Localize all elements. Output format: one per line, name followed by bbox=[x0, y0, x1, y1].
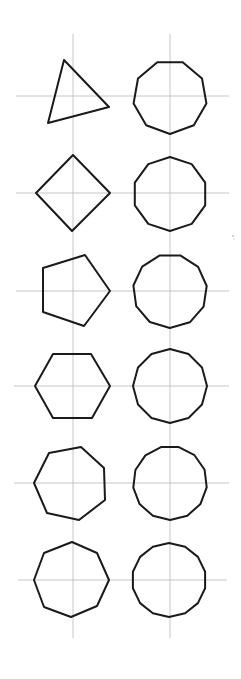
pentagon-shape bbox=[43, 255, 110, 326]
scan-specks bbox=[232, 235, 234, 239]
polygon-shapes bbox=[34, 60, 207, 617]
heptagon-shape bbox=[34, 447, 105, 520]
speck-2 bbox=[233, 238, 234, 239]
speck-1 bbox=[232, 235, 234, 237]
polygon-diagram bbox=[0, 0, 241, 679]
octagon-shape bbox=[34, 542, 109, 617]
triangle-shape bbox=[48, 60, 109, 123]
crosshair-grid bbox=[14, 34, 229, 638]
